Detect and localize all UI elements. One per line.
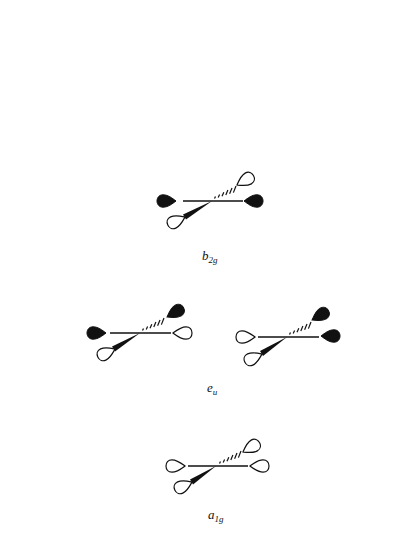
bond-wedge-front	[260, 337, 287, 356]
bond-hashed-back	[220, 451, 242, 464]
lobe-back-right-open	[234, 170, 257, 190]
bond-hashed-back	[290, 322, 312, 335]
lobe-back-right-filled	[309, 305, 332, 325]
lobe-right-filled	[244, 195, 263, 207]
bond-wedge-front	[183, 201, 212, 220]
lobe-left-filled	[87, 327, 106, 339]
diagram-a1g	[166, 437, 269, 496]
label-a1g: a1g	[208, 508, 224, 521]
label-b2g-sub: 2g	[209, 255, 218, 265]
bond-hashed-back	[143, 318, 165, 331]
bond-hashed-back	[215, 186, 237, 199]
lobe-right-filled	[321, 330, 340, 342]
label-eu: eu	[207, 381, 217, 394]
lobe-right-open	[173, 327, 192, 339]
diagram-b2g	[157, 170, 263, 231]
lobe-left-open	[166, 460, 185, 472]
label-eu-sub: u	[213, 387, 218, 397]
orbital-symmetry-figure	[0, 0, 417, 551]
lobe-left-filled	[157, 195, 176, 207]
lobe-back-right-filled	[164, 302, 187, 322]
lobe-back-right-open	[240, 437, 263, 457]
diagram-eu-2	[236, 305, 340, 368]
diagram-eu-1	[87, 302, 192, 363]
label-b2g: b2g	[202, 249, 218, 262]
bond-wedge-front	[190, 466, 216, 485]
label-a1g-sub: 1g	[215, 514, 224, 524]
lobe-left-open	[236, 331, 255, 343]
lobe-right-open	[250, 460, 269, 472]
bond-wedge-front	[112, 333, 140, 352]
